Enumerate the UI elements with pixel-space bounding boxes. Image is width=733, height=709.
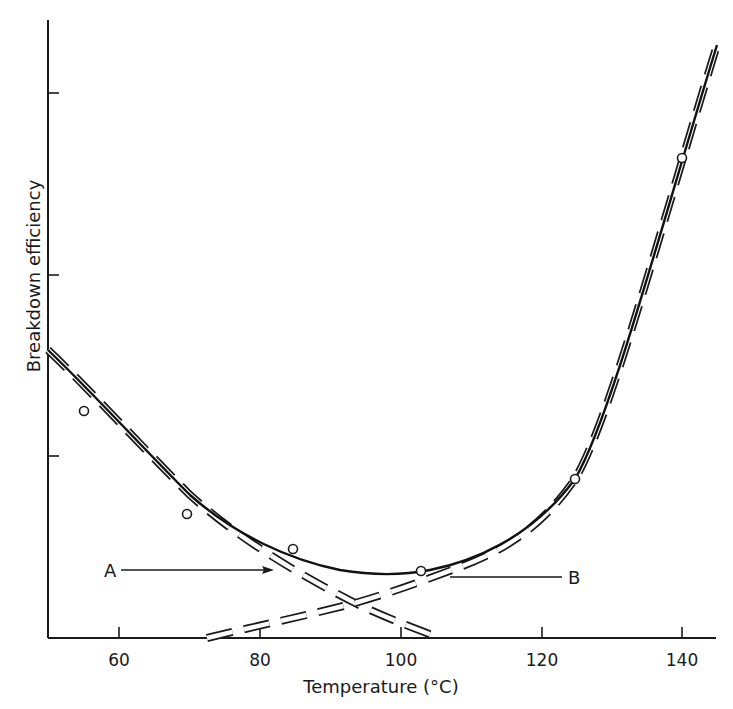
curve-b-dashed [207, 45, 717, 638]
x-tick-label-120: 120 [526, 650, 558, 670]
annotation-a-label: A [104, 560, 117, 581]
y-ticks [48, 93, 59, 456]
annotation-b-label: B [568, 567, 580, 588]
x-axis-title: Temperature (°C) [302, 676, 458, 697]
data-point [183, 510, 192, 519]
chart: 60 80 100 120 140 Temperature (°C) Break… [0, 0, 733, 709]
x-tick-label-100: 100 [385, 650, 417, 670]
data-point [571, 475, 580, 484]
curve-a-dashed [48, 350, 440, 638]
data-point [289, 545, 298, 554]
measured-points [80, 154, 687, 576]
data-point [417, 567, 426, 576]
curve-total-solid [48, 45, 717, 574]
x-tick-label-80: 80 [249, 650, 271, 670]
x-ticks [119, 627, 682, 638]
x-tick-label-140: 140 [666, 650, 698, 670]
x-tick-label-60: 60 [108, 650, 130, 670]
y-axis-title: Breakdown efficiency [23, 179, 44, 372]
data-point [678, 154, 687, 163]
data-point [80, 407, 89, 416]
